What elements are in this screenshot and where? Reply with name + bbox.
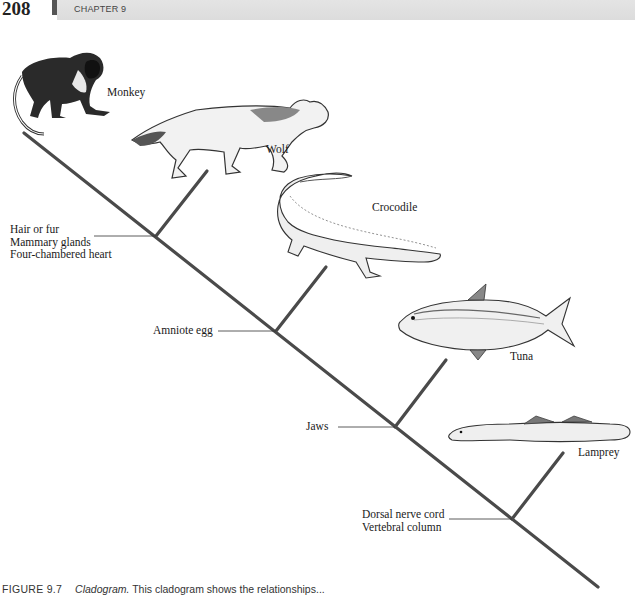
branch-crocodile: [276, 267, 326, 331]
node-label-amniote-egg: Amniote egg: [153, 324, 213, 337]
taxon-label-crocodile: Crocodile: [372, 201, 417, 214]
crocodile-illustration-icon: [278, 173, 441, 278]
taxon-label-tuna: Tuna: [510, 350, 533, 363]
node-label-vertebrate-traits: Dorsal nerve cord Vertebral column: [362, 508, 444, 533]
branch-tuna: [395, 360, 446, 427]
taxon-label-lamprey: Lamprey: [578, 446, 620, 459]
taxon-label-wolf: Wolf: [266, 143, 289, 156]
node-label-mammal-traits: Hair or fur Mammary glands Four-chambere…: [10, 223, 112, 261]
lamprey-illustration-icon: [449, 416, 630, 442]
trait-jaws: Jaws: [306, 420, 328, 433]
branch-lamprey: [512, 453, 563, 519]
trait-vertebral-column: Vertebral column: [362, 521, 444, 534]
node-label-jaws: Jaws: [306, 420, 328, 433]
taxon-label-monkey: Monkey: [107, 86, 145, 99]
figure-title: Cladogram.: [75, 583, 129, 595]
trait-mammary-glands: Mammary glands: [10, 236, 112, 249]
tuna-illustration-icon: [399, 284, 575, 360]
trait-amniote-egg: Amniote egg: [153, 324, 213, 337]
figure-label: FIGURE 9.7: [2, 583, 62, 595]
trait-dorsal-nerve-cord: Dorsal nerve cord: [362, 508, 444, 521]
cladogram: [0, 0, 640, 596]
figure-caption-text: This cladogram shows the relationships..…: [132, 583, 325, 595]
branch-wolf: [156, 171, 207, 236]
trait-hair-or-fur: Hair or fur: [10, 223, 112, 236]
trait-four-chambered-heart: Four-chambered heart: [10, 248, 112, 261]
wolf-illustration-icon: [132, 100, 328, 178]
figure-caption: FIGURE 9.7 Cladogram. This cladogram sho…: [2, 583, 325, 595]
monkey-illustration-icon: [15, 53, 111, 134]
